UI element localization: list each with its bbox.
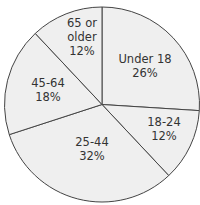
slice-label: 25-4432% — [75, 135, 108, 163]
slice-label: 45-6418% — [31, 76, 64, 104]
pie-svg: Under 1826%18-2412%25-4432%45-6418%65 or… — [0, 0, 200, 205]
slice-label: 65 orolder12% — [67, 16, 97, 58]
slice-label: 18-2412% — [147, 115, 180, 143]
pie-chart: Under 1826%18-2412%25-4432%45-6418%65 or… — [0, 0, 200, 205]
